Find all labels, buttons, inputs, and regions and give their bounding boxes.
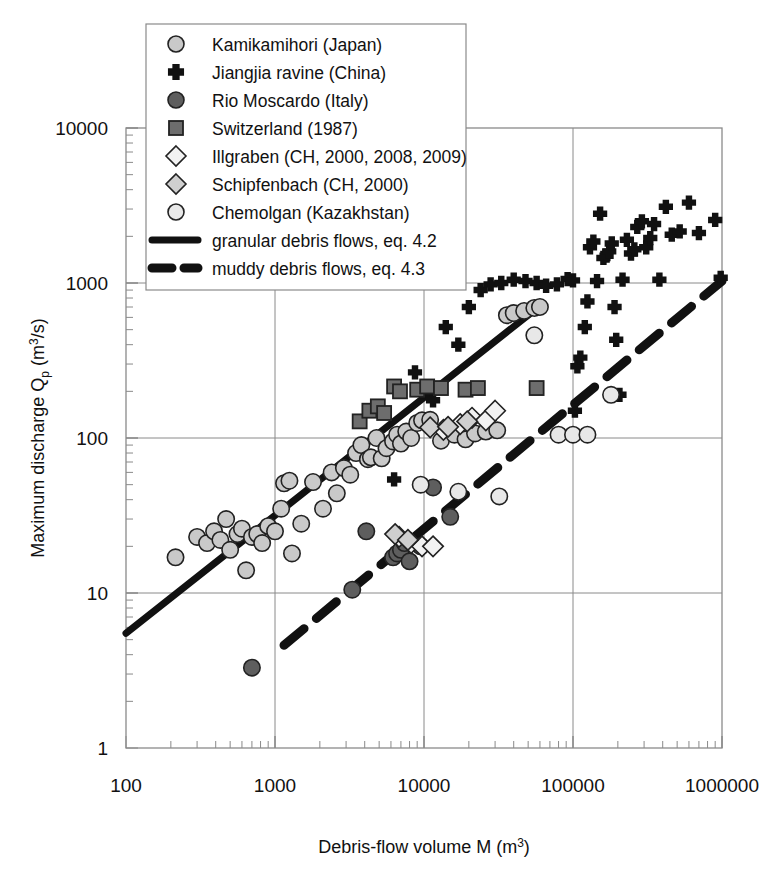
data-point xyxy=(442,509,458,525)
data-point xyxy=(342,466,358,482)
data-point xyxy=(284,545,300,561)
data-point xyxy=(293,515,309,531)
data-point xyxy=(315,500,331,516)
data-point xyxy=(393,384,407,398)
data-point xyxy=(491,488,507,504)
x-tick-label: 1000 xyxy=(254,775,296,796)
data-point xyxy=(530,381,544,395)
x-tick-label: 10000 xyxy=(398,775,451,796)
y-tick-label: 10 xyxy=(87,583,108,604)
data-point xyxy=(526,327,542,343)
data-point xyxy=(403,430,419,446)
data-point xyxy=(471,381,485,395)
data-point xyxy=(532,299,548,315)
legend-marker-switzerland xyxy=(169,121,183,135)
legend-marker-kamikamihori xyxy=(168,36,184,52)
data-point xyxy=(218,511,234,527)
y-tick-label: 1000 xyxy=(66,273,108,294)
legend-label-muddy_line: muddy debris flows, eq. 4.3 xyxy=(212,259,425,279)
legend-label-kamikamihori: Kamikamihori (Japan) xyxy=(212,35,382,55)
data-point xyxy=(420,379,434,393)
data-point xyxy=(412,476,428,492)
legend-label-chemolgan: Chemolgan (Kazakhstan) xyxy=(212,203,409,223)
data-point xyxy=(344,582,360,598)
y-tick-label: 100 xyxy=(76,428,108,449)
legend-marker-moscardo xyxy=(168,92,184,108)
data-point xyxy=(273,500,289,516)
data-point xyxy=(434,381,448,395)
legend-label-illgraben: Illgraben (CH, 2000, 2008, 2009) xyxy=(212,147,467,167)
data-point xyxy=(401,553,417,569)
legend-label-moscardo: Rio Moscardo (Italy) xyxy=(212,91,369,111)
data-point xyxy=(222,542,238,558)
data-point xyxy=(305,474,321,490)
legend: Kamikamihori (Japan)Jiangjia ravine (Chi… xyxy=(146,24,467,290)
figure-root: 1001000100001000001000000 11010010001000… xyxy=(0,0,774,879)
data-point xyxy=(579,427,595,443)
legend-marker-chemolgan xyxy=(168,204,184,220)
data-point xyxy=(329,485,345,501)
data-point xyxy=(450,484,466,500)
debris-flow-scatter-chart: 1001000100001000001000000 11010010001000… xyxy=(0,0,774,879)
legend-label-jiangjia: Jiangjia ravine (China) xyxy=(212,63,386,83)
x-tick-label: 100 xyxy=(110,775,142,796)
x-tick-label: 1000000 xyxy=(685,775,759,796)
data-point xyxy=(603,387,619,403)
data-point xyxy=(167,549,183,565)
y-tick-label: 10000 xyxy=(55,118,108,139)
y-tick-label: 1 xyxy=(97,738,108,759)
data-point xyxy=(254,535,270,551)
data-point xyxy=(281,473,297,489)
data-point xyxy=(244,659,260,675)
x-tick-label: 100000 xyxy=(541,775,604,796)
legend-label-schipfenbach: Schipfenbach (CH, 2000) xyxy=(212,175,409,195)
data-point xyxy=(238,562,254,578)
x-axis-title: Debris-flow volume M (m3) xyxy=(318,836,530,857)
data-point xyxy=(267,523,283,539)
legend-label-switzerland: Switzerland (1987) xyxy=(212,119,358,139)
legend-label-granular_line: granular debris flows, eq. 4.2 xyxy=(212,231,437,251)
data-point xyxy=(358,523,374,539)
data-point xyxy=(377,406,391,420)
